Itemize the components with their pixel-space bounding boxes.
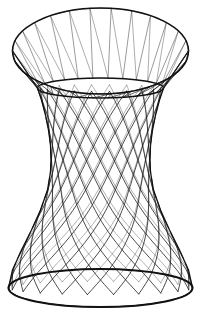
wireframe-stool-figure	[0, 0, 201, 312]
figure-background	[0, 0, 201, 312]
stool-svg-canvas	[0, 0, 201, 312]
